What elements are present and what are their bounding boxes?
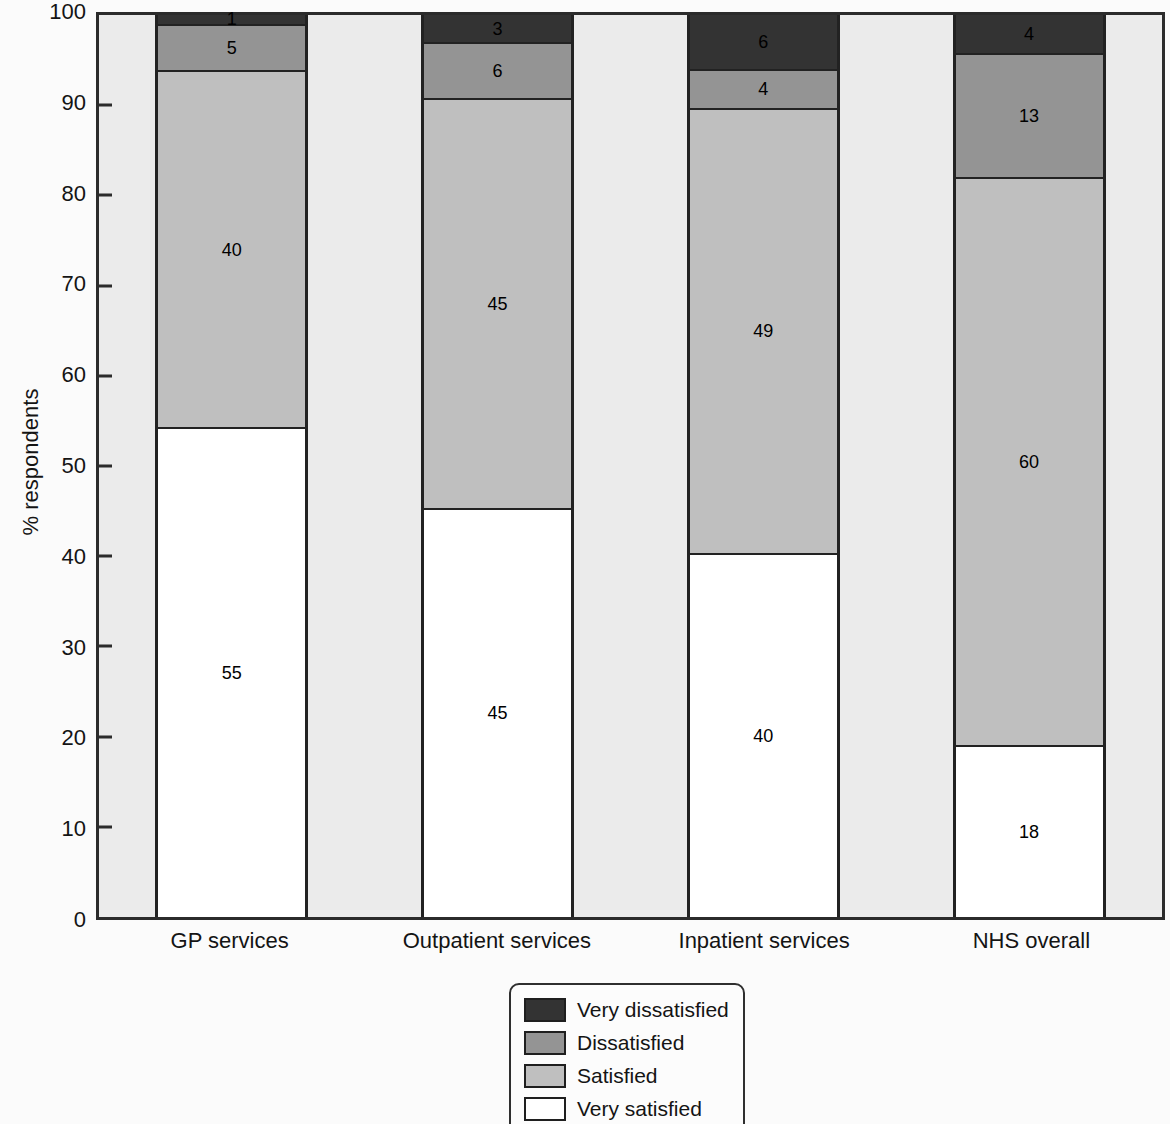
segment-value-label: 40	[753, 731, 773, 741]
y-tick-label: 90	[62, 90, 86, 116]
bar-segment: 18	[956, 745, 1103, 917]
legend-item: Very dissatisfied	[524, 998, 743, 1022]
stacked-bar: 154055	[155, 15, 308, 917]
y-tick-mark	[99, 825, 112, 828]
legend-label: Dissatisfied	[577, 1031, 684, 1055]
bar-segment: 45	[424, 98, 571, 507]
segment-value-label: 18	[1019, 827, 1039, 837]
segment-value-label: 1	[227, 14, 237, 24]
y-tick-mark	[99, 374, 112, 377]
y-tick-label: 30	[62, 635, 86, 661]
bar-column: 364545	[365, 15, 631, 917]
x-category-label: Outpatient services	[363, 928, 630, 954]
x-category-label: Inpatient services	[631, 928, 898, 954]
segment-value-label: 45	[488, 299, 508, 309]
bar-column: 644940	[631, 15, 897, 917]
legend-swatch	[524, 1097, 566, 1121]
y-tick-label: 60	[62, 362, 86, 388]
bar-segment: 13	[956, 53, 1103, 178]
y-tick-mark	[99, 284, 112, 287]
y-tick-label: 10	[62, 816, 86, 842]
bar-column: 4136018	[896, 15, 1162, 917]
bar-segment: 3	[424, 15, 571, 42]
y-tick-label: 20	[62, 725, 86, 751]
y-tick-mark	[99, 555, 112, 558]
legend-label: Very dissatisfied	[577, 998, 729, 1022]
stacked-bar: 644940	[687, 15, 840, 917]
segment-value-label: 5	[227, 43, 237, 53]
legend-item: Very satisfied	[524, 1097, 743, 1121]
legend-label: Satisfied	[577, 1064, 658, 1088]
segment-value-label: 6	[493, 66, 503, 76]
y-tick-mark	[99, 104, 112, 107]
bar-segment: 60	[956, 177, 1103, 745]
bar-segment: 6	[424, 42, 571, 98]
segment-value-label: 6	[758, 37, 768, 47]
y-tick-label: 50	[62, 453, 86, 479]
bar-segment: 40	[690, 553, 837, 917]
y-tick-label: 100	[49, 0, 86, 25]
bar-segment: 5	[158, 24, 305, 70]
segment-value-label: 13	[1019, 111, 1039, 121]
y-tick-mark	[99, 194, 112, 197]
x-category-label: NHS overall	[898, 928, 1165, 954]
y-tick-mark	[99, 645, 112, 648]
segment-value-label: 60	[1019, 457, 1039, 467]
bar-segment: 45	[424, 508, 571, 917]
bar-segment: 49	[690, 108, 837, 553]
plot-area: 1540553645456449404136018	[96, 12, 1165, 920]
stacked-bar: 4136018	[953, 15, 1106, 917]
legend-item: Satisfied	[524, 1064, 743, 1088]
y-tick-mark	[99, 465, 112, 468]
bar-segment: 4	[690, 69, 837, 107]
legend-box: Very dissatisfiedDissatisfiedSatisfiedVe…	[509, 983, 745, 1124]
segment-value-label: 49	[753, 326, 773, 336]
bar-segment: 1	[158, 15, 305, 24]
y-tick-mark	[99, 735, 112, 738]
segment-value-label: 45	[488, 708, 508, 718]
y-tick-label: 80	[62, 181, 86, 207]
x-axis-category-labels: GP servicesOutpatient servicesInpatient …	[96, 928, 1165, 954]
chart-figure: % respondents 0102030405060708090100 154…	[0, 0, 1170, 1124]
x-category-label: GP services	[96, 928, 363, 954]
segment-value-label: 55	[222, 668, 242, 678]
bars-container: 1540553645456449404136018	[99, 15, 1162, 917]
segment-value-label: 3	[493, 24, 503, 34]
y-tick-label: 0	[74, 907, 86, 933]
bar-segment: 40	[158, 70, 305, 427]
y-tick-label: 40	[62, 544, 86, 570]
stacked-bar: 364545	[421, 15, 574, 917]
bar-column: 154055	[99, 15, 365, 917]
legend-swatch	[524, 1031, 566, 1055]
y-axis-tick-labels: 0102030405060708090100	[0, 12, 86, 920]
bar-segment: 4	[956, 15, 1103, 53]
legend-label: Very satisfied	[577, 1097, 702, 1121]
segment-value-label: 4	[1024, 29, 1034, 39]
y-tick-label: 70	[62, 271, 86, 297]
legend-swatch	[524, 1064, 566, 1088]
bar-segment: 55	[158, 427, 305, 917]
segment-value-label: 4	[758, 84, 768, 94]
legend-swatch	[524, 998, 566, 1022]
segment-value-label: 40	[222, 245, 242, 255]
legend-item: Dissatisfied	[524, 1031, 743, 1055]
bar-segment: 6	[690, 15, 837, 69]
